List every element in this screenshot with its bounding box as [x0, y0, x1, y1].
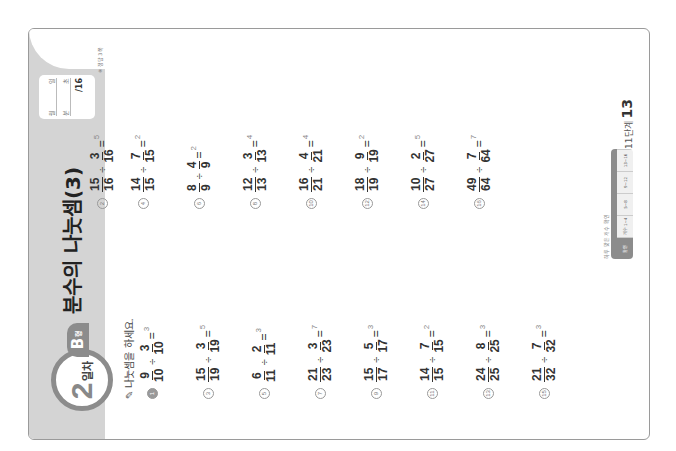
problem-item: 91517÷517=3	[363, 325, 389, 399]
numerator: 2	[410, 152, 424, 161]
denominator: 19	[368, 149, 381, 162]
divide-sign: ÷	[305, 167, 317, 173]
numerator: 3	[139, 344, 153, 353]
denominator: 15	[433, 368, 446, 381]
dividend-fraction: 2132	[531, 367, 557, 382]
dividend-fraction: 1027	[410, 177, 436, 192]
denominator: 11	[265, 369, 278, 382]
score-total: /16	[75, 78, 84, 92]
numerator: 9	[139, 371, 153, 380]
denominator: 11	[265, 343, 278, 356]
equals-sign: =	[136, 140, 150, 147]
denominator: 23	[321, 368, 334, 381]
footer-cell: 13~16	[617, 149, 633, 171]
problem-item: 81213÷313=4	[242, 135, 268, 209]
answer: 3	[366, 325, 375, 329]
divide-sign: ÷	[417, 167, 429, 173]
problem-item: 164964÷764=7	[466, 135, 492, 209]
equals-sign: =	[425, 330, 439, 337]
denominator: 15	[433, 339, 446, 352]
answer: 3	[478, 325, 487, 329]
problem-number: 12	[362, 198, 373, 209]
page-number-value: 13	[619, 99, 635, 118]
dividend-fraction: 910	[139, 369, 165, 382]
problem-number: 3	[203, 388, 214, 399]
problem-item: 31519÷319=5	[195, 325, 221, 399]
dividend-fraction: 4964	[466, 177, 492, 192]
problem-item: 132425÷825=3	[475, 325, 501, 399]
equals-sign: =	[145, 332, 159, 339]
denominator: 23	[321, 339, 334, 352]
time-min: 분	[61, 110, 70, 116]
instruction: ✎나눗셈을 하세요.	[121, 318, 136, 399]
divisor-fraction: 323	[307, 339, 333, 352]
divisor-fraction: 825	[475, 339, 501, 352]
denominator: 17	[377, 368, 390, 381]
type-letter: B	[69, 338, 87, 349]
problem-number: 10	[306, 198, 317, 209]
problem-number: 14	[418, 198, 429, 209]
divisor-fraction: 764	[466, 149, 492, 162]
equals-sign: =	[481, 330, 495, 337]
equals-sign: =	[95, 140, 109, 147]
divide-sign: ÷	[482, 357, 494, 363]
denominator: 16	[103, 149, 116, 162]
divide-sign: ÷	[426, 357, 438, 363]
numerator: 21	[307, 367, 321, 382]
answer: 7	[469, 135, 478, 139]
time-sec: 초	[61, 78, 70, 84]
numerator: 8	[186, 183, 200, 192]
equals-sign: =	[248, 140, 262, 147]
denominator: 21	[312, 178, 325, 191]
answer: 2	[189, 146, 198, 150]
date-day: 일	[47, 78, 56, 84]
divisor-fraction: 316	[89, 149, 115, 162]
numerator: 49	[466, 177, 480, 192]
numerator: 7	[531, 342, 545, 351]
problem-number: 6	[194, 198, 205, 209]
denominator: 64	[480, 149, 493, 162]
denominator: 9	[200, 162, 213, 169]
numerator: 18	[354, 177, 368, 192]
footer-table-label: 하루 맞은 개수 확인	[602, 214, 609, 259]
divisor-fraction: 517	[363, 339, 389, 352]
problem-number: 2	[97, 198, 108, 209]
denominator: 13	[256, 149, 269, 162]
denominator: 16	[103, 178, 116, 191]
problem-item: 111415÷715=2	[419, 325, 445, 399]
denominator: 21	[312, 149, 325, 162]
denominator: 25	[489, 339, 502, 352]
divide-sign: ÷	[146, 359, 158, 365]
divisor-fraction: 310	[139, 341, 165, 354]
divisor-fraction: 313	[242, 149, 268, 162]
problem-item: 141027÷227=5	[410, 135, 436, 209]
dividend-fraction: 1213	[242, 177, 268, 192]
instruction-text: 나눗셈을 하세요.	[124, 318, 135, 387]
dividend-fraction: 2123	[307, 367, 333, 382]
divide-sign: ÷	[538, 357, 550, 363]
numerator: 9	[354, 152, 368, 161]
divide-sign: ÷	[96, 167, 108, 173]
answer: 3	[142, 327, 151, 331]
denominator: 10	[153, 341, 166, 354]
numerator: 3	[195, 342, 209, 351]
dividend-fraction: 1621	[298, 177, 324, 192]
problem-number: 11	[427, 388, 438, 399]
pencil-icon: ✎	[124, 391, 135, 399]
divide-sign: ÷	[361, 167, 373, 173]
day-label: 일차	[79, 361, 95, 381]
numerator: 12	[242, 177, 256, 192]
problem-item: 1910÷310=3	[139, 327, 165, 399]
numerator: 15	[195, 367, 209, 382]
equals-sign: =	[201, 330, 215, 337]
divide-sign: ÷	[258, 359, 270, 365]
dividend-fraction: 611	[251, 369, 277, 382]
numerator: 24	[475, 367, 489, 382]
footer-progress-table: 확인 개수 1~4 5~8 9~12 13~16	[611, 149, 633, 259]
dividend-fraction: 1516	[89, 177, 115, 192]
answer: 4	[245, 135, 254, 139]
denominator: 25	[489, 368, 502, 381]
denominator: 27	[424, 149, 437, 162]
problem-number: 15	[539, 388, 550, 399]
problem-item: 101621÷421=4	[298, 135, 324, 209]
